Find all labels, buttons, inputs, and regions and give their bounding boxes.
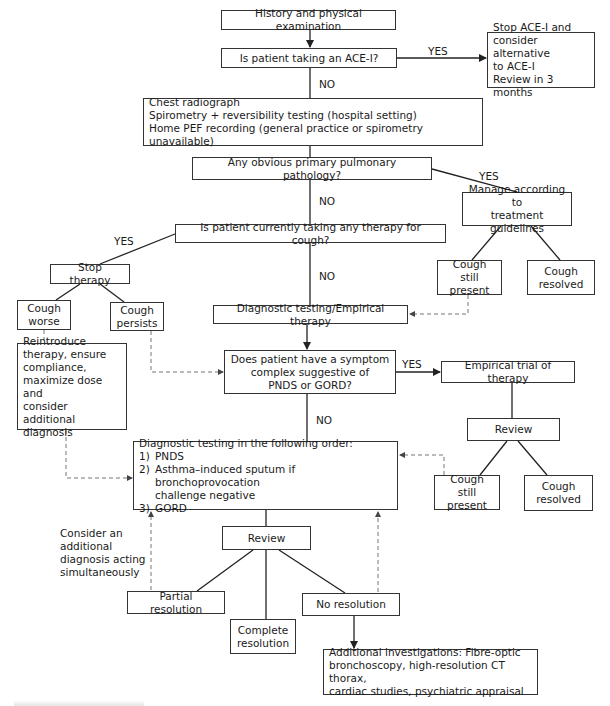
node-line: Cough [27, 302, 61, 315]
node-stop-ace-line: to ACE-I [493, 60, 535, 73]
item-text: PNDS [155, 450, 184, 463]
node-cough-resolved-2: Cough resolved [524, 475, 593, 511]
node-cough-worse: Cough worse [17, 300, 71, 330]
node-line: Cough still [440, 473, 494, 499]
item-text: Asthma–induced sputum if bronchoprovocat… [155, 463, 392, 489]
node-line: complex suggestive of [251, 366, 369, 379]
node-empirical-trial-text: Empirical trial of therapy [447, 359, 569, 385]
node-partial-resolution-text: Partial resolution [133, 590, 219, 616]
investigation-line: Chest radiograph [149, 96, 240, 109]
node-investigations: Chest radiograph Spirometry + reversibil… [143, 98, 483, 146]
node-line: present [447, 499, 487, 512]
investigation-line: Spirometry + reversibility testing (hosp… [149, 109, 417, 122]
node-stop-ace: Stop ACE-I and consider alternative to A… [487, 32, 595, 88]
diagnostic-order-item: 1)PNDS [139, 450, 392, 463]
label-ace-no: NO [319, 78, 335, 91]
label-therapy-yes: YES [114, 235, 134, 248]
node-reintroduce: Reintroduce therapy, ensure compliance, … [17, 343, 127, 430]
node-stop-therapy-text: Stop therapy [56, 261, 124, 287]
note-line: additional [60, 540, 146, 553]
node-stop-therapy: Stop therapy [50, 264, 130, 284]
node-line: Cough [120, 304, 154, 317]
node-ace-question: Is patient taking an ACE-I? [221, 48, 397, 68]
node-review-2: Review [222, 526, 311, 550]
node-diagnostic-order: Diagnostic testing in the following orde… [133, 441, 398, 510]
node-line: bronchoscopy, high-resolution CT thorax, [329, 659, 532, 685]
diagnostic-order-item: challenge negative [139, 489, 392, 502]
node-cough-resolved-1: Cough resolved [527, 260, 595, 295]
node-additional-investigations: Additional investigations: Fibre-optic b… [323, 649, 538, 695]
label-symptom-yes: YES [402, 358, 422, 371]
label-pulm-yes: YES [479, 170, 499, 183]
label-pulm-no: NO [319, 195, 335, 208]
node-line: Additional investigations: Fibre-optic [329, 646, 521, 659]
node-line: persists [117, 317, 158, 330]
node-stop-ace-line: Review in 3 months [493, 73, 589, 99]
node-line: resolved [536, 493, 581, 506]
label-ace-yes: YES [428, 45, 448, 58]
label-symptom-no: NO [316, 414, 332, 427]
node-no-resolution-text: No resolution [316, 598, 386, 611]
node-review-2-text: Review [248, 532, 285, 545]
diagnostic-order-item: 3)GORD [139, 502, 392, 515]
node-ace-question-text: Is patient taking an ACE-I? [240, 52, 379, 65]
node-line: resolution [237, 637, 289, 650]
node-stop-ace-line: consider alternative [493, 34, 589, 60]
node-manage-line: treatment guidelines [468, 209, 566, 235]
item-text: GORD [155, 502, 187, 515]
node-line: Cough [542, 480, 576, 493]
node-cough-still-present-2: Cough still present [434, 475, 500, 510]
node-line: Cough still [443, 258, 496, 284]
diagnostic-order-list: 1)PNDS 2)Asthma–induced sputum if bronch… [139, 450, 392, 515]
node-symptom-question: Does patient have a symptom complex sugg… [224, 350, 396, 394]
node-stop-ace-line: Stop ACE-I and [493, 21, 571, 34]
node-cough-still-present-1: Cough still present [437, 260, 502, 295]
node-no-resolution: No resolution [302, 593, 400, 616]
note-line: simultaneously [60, 566, 146, 579]
node-review-1-text: Review [495, 423, 532, 436]
label-therapy-no: NO [319, 270, 335, 283]
diagnostic-order-title: Diagnostic testing in the following orde… [139, 437, 353, 450]
node-partial-resolution: Partial resolution [127, 591, 225, 614]
node-therapy-question: Is patient currently taking any therapy … [175, 224, 446, 243]
investigation-line: Home PEF recording (general practice or … [149, 122, 477, 148]
note-line: diagnosis acting [60, 553, 146, 566]
node-therapy-question-text: Is patient currently taking any therapy … [181, 221, 440, 247]
node-line: maximize dose and [23, 374, 121, 400]
node-history: History and physical examination [221, 10, 396, 30]
node-pulmonary-question-text: Any obvious primary pulmonary pathology? [198, 156, 426, 182]
node-line: therapy, ensure [23, 348, 106, 361]
node-diagnostic-empirical-text: Diagnostic testing/Empirical therapy [219, 302, 402, 328]
node-cough-persists: Cough persists [110, 302, 164, 331]
item-number: 1) [139, 450, 155, 463]
item-number: 2) [139, 463, 155, 489]
item-number [139, 489, 155, 502]
node-empirical-trial: Empirical trial of therapy [441, 361, 575, 383]
node-complete-resolution: Complete resolution [230, 619, 296, 654]
node-line: diagnosis [23, 426, 73, 439]
node-manage-guidelines: Manage according to treatment guidelines [462, 192, 572, 226]
node-line: Does patient have a symptom [231, 353, 390, 366]
node-line: present [450, 284, 490, 297]
node-history-text: History and physical examination [227, 7, 390, 33]
node-manage-line: Manage according to [468, 183, 566, 209]
note-line: Consider an [60, 527, 146, 540]
note-consider-additional: Consider an additional diagnosis acting … [60, 527, 146, 579]
node-line: consider additional [23, 400, 121, 426]
figure-caption-clipped [14, 700, 144, 706]
node-review-1: Review [467, 418, 560, 441]
node-line: Reintroduce [23, 335, 86, 348]
item-text: challenge negative [155, 489, 255, 502]
node-line: Cough [544, 265, 578, 278]
node-pulmonary-question: Any obvious primary pulmonary pathology? [192, 157, 432, 180]
node-diagnostic-empirical: Diagnostic testing/Empirical therapy [213, 305, 408, 324]
node-line: Complete [238, 624, 289, 637]
node-line: resolved [539, 278, 584, 291]
node-line: worse [28, 315, 59, 328]
node-line: cardiac studies, psychiatric appraisal [329, 685, 524, 698]
diagnostic-order-item: 2)Asthma–induced sputum if bronchoprovoc… [139, 463, 392, 489]
item-number: 3) [139, 502, 155, 515]
node-line: PNDS or GORD? [268, 379, 352, 392]
node-line: compliance, [23, 361, 87, 374]
